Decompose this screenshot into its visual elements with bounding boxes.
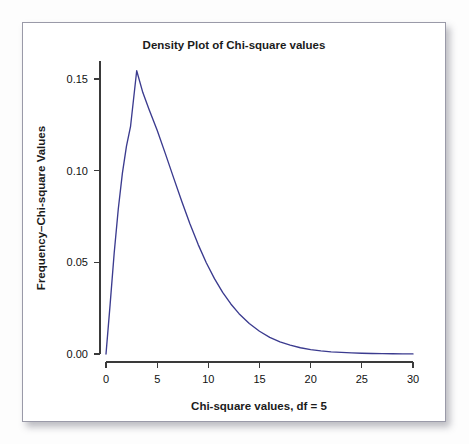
density-curve-line: [106, 71, 413, 354]
x-tick-label-6: 30: [407, 373, 419, 385]
screenshot-root: Density Plot of Chi-square values 0.00 0…: [0, 0, 469, 444]
x-axis: 0 5 10 15 20 25 30 Chi-square values, df…: [103, 362, 419, 412]
x-axis-ticks: [106, 362, 413, 368]
y-tick-label-0: 0.00: [67, 348, 88, 360]
x-tick-label-5: 25: [356, 373, 368, 385]
y-axis-ticks: [94, 79, 100, 354]
density-plot-chart: Density Plot of Chi-square values 0.00 0…: [23, 23, 445, 421]
y-axis-title: Frequency–Chi-square Values: [35, 126, 47, 290]
plot-surface: Density Plot of Chi-square values 0.00 0…: [23, 23, 445, 421]
figure-card: Density Plot of Chi-square values 0.00 0…: [22, 22, 446, 422]
x-axis-title: Chi-square values, df = 5: [191, 400, 327, 412]
x-tick-label-4: 20: [305, 373, 317, 385]
x-tick-label-1: 5: [154, 373, 160, 385]
y-tick-label-1: 0.05: [67, 256, 88, 268]
y-axis-tick-labels: 0.00 0.05 0.10 0.15: [67, 73, 88, 360]
y-tick-label-3: 0.15: [67, 73, 88, 85]
x-tick-label-2: 10: [202, 373, 214, 385]
y-tick-label-2: 0.10: [67, 165, 88, 177]
x-axis-tick-labels: 0 5 10 15 20 25 30: [103, 373, 419, 385]
chart-title: Density Plot of Chi-square values: [143, 39, 326, 51]
x-tick-label-0: 0: [103, 373, 109, 385]
y-axis: 0.00 0.05 0.10 0.15 Frequency–Chi-square…: [35, 61, 100, 360]
x-tick-label-3: 15: [253, 373, 265, 385]
